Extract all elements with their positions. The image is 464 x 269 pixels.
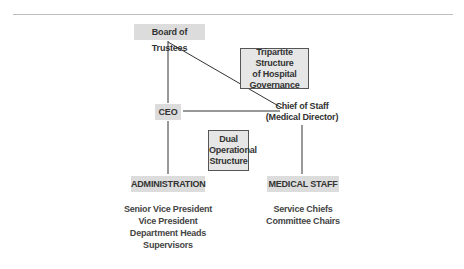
list-item: Senior Vice President xyxy=(118,203,218,215)
ceo-node: CEO xyxy=(155,104,181,120)
dual-operational-structure-note: Dual Operational Structure xyxy=(208,130,249,171)
chief-of-staff-node: Chief of Staff (Medical Director) xyxy=(262,101,342,123)
administration-roles-list: Senior Vice President Vice President Dep… xyxy=(118,203,218,251)
list-item: Vice President xyxy=(118,215,218,227)
medical-staff-roles-list: Service Chiefs Committee Chairs xyxy=(253,203,353,227)
list-item: Department Heads xyxy=(118,227,218,239)
chief-of-staff-subtitle: (Medical Director) xyxy=(262,112,342,123)
note-line: Dual xyxy=(209,134,248,145)
note-line: Tripartite Structure xyxy=(241,47,308,69)
list-item: Committee Chairs xyxy=(253,215,353,227)
list-item: Service Chiefs xyxy=(253,203,353,215)
board-of-trustees-node: Board of Trustees xyxy=(134,24,205,40)
note-line: Operational xyxy=(209,145,248,156)
note-line: of Hospital xyxy=(241,69,308,80)
note-line: Governance xyxy=(241,80,308,91)
chief-of-staff-title: Chief of Staff xyxy=(262,101,342,112)
tripartite-structure-note: Tripartite Structure of Hospital Governa… xyxy=(240,48,309,89)
list-item: Supervisors xyxy=(118,239,218,251)
note-line: Structure xyxy=(209,156,248,167)
administration-node: ADMINISTRATION xyxy=(131,176,205,192)
medical-staff-node: MEDICAL STAFF xyxy=(267,176,339,192)
